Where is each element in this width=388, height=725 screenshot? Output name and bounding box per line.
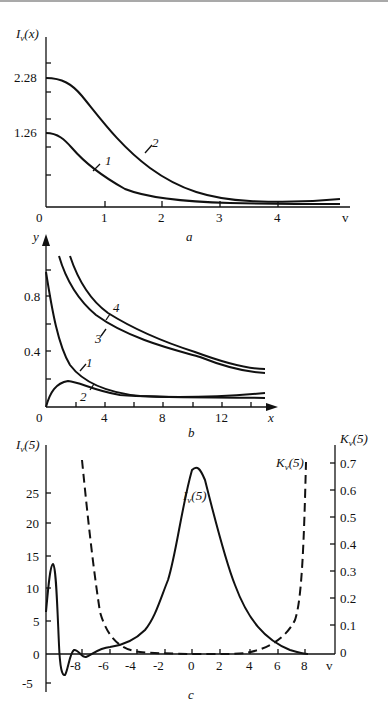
svg-text:0.3: 0.3	[340, 564, 356, 579]
panel-c: Iv(5) Kv(5) 25 20 15 10 5 0 -5 0.7 0.6 0…	[15, 431, 368, 702]
right-axis-label: Kv(5)	[339, 431, 368, 448]
curve-annotation-Kv5: Kv(5)	[275, 455, 304, 472]
right-tick-labels: 0.7 0.6 0.5 0.4 0.3 0.2 0.1 0	[340, 456, 357, 660]
y-tick-label: 0.4	[24, 344, 41, 359]
svg-text:0: 0	[340, 645, 347, 660]
svg-text:10: 10	[26, 581, 39, 596]
left-axis-label: Iv(5)	[15, 437, 40, 454]
y-axis-label: y	[31, 229, 39, 244]
x-ticks	[76, 402, 251, 407]
svg-text:4: 4	[246, 658, 253, 673]
panel-caption: a	[186, 229, 193, 244]
svg-text:-2: -2	[153, 658, 164, 673]
y-tick-label: 0.8	[24, 289, 40, 304]
svg-text:-5: -5	[22, 676, 33, 691]
svg-text:2: 2	[216, 658, 223, 673]
svg-text:-6: -6	[98, 658, 109, 673]
curve-label-1: 1	[86, 355, 93, 370]
x-tick-labels: -8 -6 -4 -2 0 2 4 6 8 v	[70, 658, 333, 673]
curve-label-2: 2	[80, 389, 87, 404]
y-tick-label: 1.26	[14, 125, 37, 140]
x-tick-label: 0	[36, 210, 43, 225]
curve-label-2: 2	[152, 135, 159, 150]
curve-label-3: 3	[94, 331, 102, 346]
svg-text:0.1: 0.1	[340, 618, 356, 633]
x-axis-label: x	[267, 410, 274, 425]
x-axis-label: v	[342, 210, 349, 225]
curve-1	[46, 133, 340, 204]
y-ticks	[46, 63, 51, 175]
y-axis-label: Iv(x)	[15, 26, 39, 43]
svg-text:0.6: 0.6	[340, 483, 357, 498]
x-tick-label: 1	[101, 210, 108, 225]
svg-text:0.7: 0.7	[340, 456, 357, 471]
svg-text:15: 15	[26, 549, 39, 564]
curve-1	[46, 272, 265, 397]
x-tick-label: 12	[215, 410, 228, 425]
figure: Iv(x) 2.28 1.26 0 1 2 3 4 v 2 1 a	[0, 0, 388, 725]
svg-text:v: v	[326, 658, 333, 673]
svg-text:-4: -4	[125, 658, 136, 673]
x-tick-label: 4	[101, 410, 108, 425]
curve-Iv5	[46, 468, 308, 675]
curve-annotation-Iv5: Iv(5)	[182, 488, 207, 505]
svg-text:-8: -8	[70, 658, 81, 673]
svg-text:6: 6	[274, 658, 281, 673]
svg-text:0: 0	[33, 647, 40, 662]
panel-b: y 0.8 0.4 0 4 8 12 x 4 3 1 2 b	[24, 229, 278, 440]
svg-text:0.5: 0.5	[340, 510, 356, 525]
curve-2	[46, 381, 265, 407]
y-arrow-icon	[42, 234, 50, 246]
svg-text:0.2: 0.2	[340, 591, 356, 606]
svg-text:0: 0	[188, 658, 195, 673]
y-tick-label: 2.28	[14, 70, 37, 85]
panel-a: Iv(x) 2.28 1.26 0 1 2 3 4 v 2 1 a	[14, 26, 350, 244]
svg-text:8: 8	[301, 658, 308, 673]
x-tick-label: 3	[216, 210, 223, 225]
svg-text:25: 25	[26, 486, 39, 501]
x-tick-label: 2	[158, 210, 165, 225]
x-tick-label: 0	[36, 410, 43, 425]
curve-2	[46, 78, 340, 202]
svg-text:20: 20	[26, 516, 39, 531]
curve-4	[70, 256, 265, 369]
right-ticks	[330, 463, 335, 625]
panel-caption: c	[188, 687, 194, 702]
curve-label-1: 1	[105, 153, 112, 168]
svg-text:0.4: 0.4	[340, 537, 357, 552]
left-tick-labels: 25 20 15 10 5 0 -5	[22, 486, 40, 691]
x-tick-label: 4	[274, 210, 281, 225]
curve-label-4: 4	[113, 300, 120, 315]
svg-text:5: 5	[33, 614, 40, 629]
x-tick-label: 8	[159, 410, 166, 425]
panel-caption: b	[188, 425, 195, 440]
